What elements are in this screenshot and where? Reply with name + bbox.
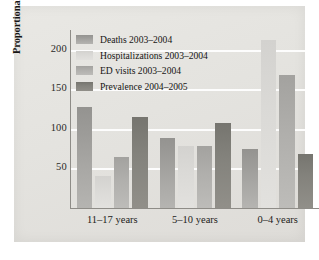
chart-legend: Deaths 2003–2004Hospitalizations 2003–20… [76, 32, 208, 94]
chart-panel: Proportional impact (percent of total) 2… [14, 6, 305, 242]
bar [95, 176, 111, 208]
x-axis-line [70, 208, 319, 209]
legend-item-label: Prevalence 2004–2005 [100, 81, 188, 92]
bar [197, 146, 213, 208]
bar [215, 123, 231, 208]
legend-swatch-icon [76, 66, 93, 75]
y-axis-tick-label: 150 [33, 82, 67, 93]
x-axis-group-label: 0–4 years [236, 214, 319, 225]
x-axis-group-label: 5–10 years [154, 214, 237, 225]
legend-swatch-icon [76, 35, 93, 44]
bar [242, 149, 258, 208]
bar [279, 75, 295, 208]
bar [178, 146, 194, 208]
y-axis-tick-label: 100 [33, 122, 67, 133]
legend-item-label: ED visits 2003–2004 [100, 65, 181, 76]
legend-item: Hospitalizations 2003–2004 [76, 48, 208, 64]
legend-item: ED visits 2003–2004 [76, 63, 208, 79]
legend-item: Prevalence 2004–2005 [76, 79, 208, 95]
chart-figure: Proportional impact (percent of total) 2… [0, 0, 319, 260]
legend-item-label: Deaths 2003–2004 [100, 34, 172, 45]
y-axis-tick-label: 50 [33, 161, 67, 172]
bar [114, 157, 130, 208]
bar [298, 154, 314, 208]
y-axis-tick-label: 200 [33, 43, 67, 54]
bar [261, 40, 277, 209]
legend-item-label: Hospitalizations 2003–2004 [100, 50, 208, 61]
x-axis-group-label: 11–17 years [71, 214, 154, 225]
bar [77, 107, 93, 208]
legend-swatch-icon [76, 82, 93, 91]
legend-item: Deaths 2003–2004 [76, 32, 208, 48]
bar [160, 138, 176, 208]
y-axis-label: Proportional impact (percent of total) [11, 0, 22, 54]
bar [132, 117, 148, 208]
legend-swatch-icon [76, 51, 93, 60]
